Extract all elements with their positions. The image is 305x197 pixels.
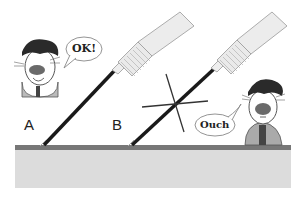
speech-text-ok: OK! xyxy=(72,42,96,55)
label-a: A xyxy=(24,116,34,133)
label-b: B xyxy=(112,116,122,133)
character-happy xyxy=(14,39,60,97)
illustration xyxy=(0,0,305,197)
speech-text-ouch: Ouch xyxy=(200,119,229,130)
character-hurt xyxy=(242,79,285,145)
skin-surface xyxy=(15,145,291,188)
injection-angle-diagram: A B OK! Ouch xyxy=(0,0,305,197)
